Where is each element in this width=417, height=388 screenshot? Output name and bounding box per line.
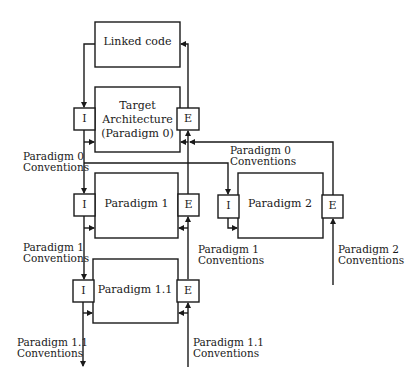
- paradigm-0-conventions-right: Paradigm 0Conventions: [230, 145, 296, 167]
- paradigm-0-conventions-left: Paradigm 0Conventions: [23, 151, 89, 173]
- p11-export-port: E: [177, 280, 199, 302]
- linked-code-label: Linked code: [95, 35, 180, 49]
- target-label-line-1: Target: [95, 99, 180, 113]
- target-label-line-3: (Paradigm 0): [95, 127, 180, 141]
- target-architecture-label: Target Architecture (Paradigm 0): [95, 99, 180, 141]
- p1-import-port: I: [74, 194, 95, 216]
- paradigm-1-1-conventions-right: Paradigm 1.1Conventions: [193, 337, 264, 359]
- paradigm-2-label: Paradigm 2: [240, 197, 320, 211]
- paradigm-1-1-label: Paradigm 1.1: [95, 283, 175, 297]
- target-export-port: E: [177, 108, 199, 130]
- paradigm-1-1-conventions-left: Paradigm 1.1Conventions: [17, 337, 88, 359]
- paradigm-1-conventions-right: Paradigm 1Conventions: [198, 244, 264, 266]
- target-label-line-2: Architecture: [95, 113, 180, 127]
- paradigm-1-conventions-left: Paradigm 1Conventions: [23, 242, 89, 264]
- p1-export-port: E: [178, 194, 199, 216]
- p2-export-port: E: [322, 195, 343, 217]
- paradigm-2-conventions: Paradigm 2Conventions: [338, 244, 404, 266]
- paradigm-1-label: Paradigm 1: [95, 197, 178, 211]
- p11-import-port: I: [73, 280, 94, 302]
- target-import-port: I: [74, 108, 95, 130]
- diagram-lines: [0, 0, 417, 388]
- p2-import-port: I: [218, 195, 239, 217]
